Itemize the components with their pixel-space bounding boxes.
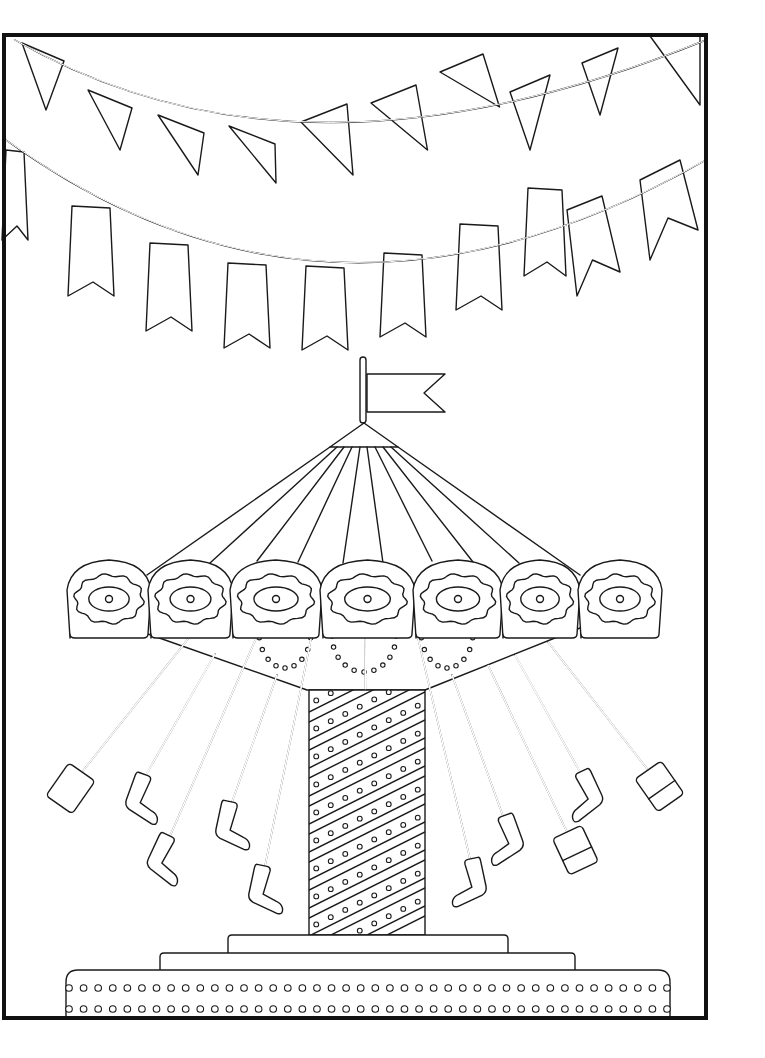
swing bbox=[417, 634, 489, 908]
stripe-dot bbox=[314, 726, 319, 731]
seat-box bbox=[46, 763, 95, 814]
swing bbox=[246, 634, 312, 915]
canopy-rib bbox=[398, 447, 580, 575]
carousel-illustration bbox=[0, 0, 765, 1058]
seat-chair bbox=[444, 857, 489, 908]
canopy-panels bbox=[67, 560, 662, 638]
stripe-dot bbox=[372, 781, 377, 786]
base-dot bbox=[357, 985, 364, 992]
stripe-dot bbox=[357, 732, 362, 737]
swing bbox=[515, 655, 608, 823]
bunting-flag bbox=[158, 115, 204, 175]
base-dot bbox=[532, 1006, 539, 1013]
decor-dot bbox=[300, 657, 304, 661]
panel-shape bbox=[148, 560, 233, 638]
stripe-dot bbox=[415, 647, 420, 652]
base-dot bbox=[387, 985, 394, 992]
base-dot bbox=[445, 1006, 452, 1013]
stripe-dot bbox=[401, 794, 406, 799]
base-dot bbox=[605, 1006, 612, 1013]
stripe-dot bbox=[314, 894, 319, 899]
decor-dot bbox=[422, 647, 426, 651]
canopy-panel bbox=[413, 560, 503, 638]
base-dot bbox=[620, 985, 627, 992]
canopy-rib bbox=[391, 447, 519, 563]
stripe-dot bbox=[386, 858, 391, 863]
base-dot bbox=[153, 985, 160, 992]
canopy-panel bbox=[230, 560, 322, 638]
decor-dot bbox=[428, 657, 432, 661]
decor-dot bbox=[352, 668, 356, 672]
swing-seat bbox=[246, 864, 291, 915]
seat-box bbox=[552, 825, 598, 875]
base-dot bbox=[284, 985, 291, 992]
seat-chair bbox=[478, 813, 527, 867]
stripe-dot bbox=[401, 682, 406, 687]
stripe-dot bbox=[401, 906, 406, 911]
base-dot bbox=[635, 985, 642, 992]
lower-garland bbox=[2, 140, 706, 350]
stripe-dot bbox=[401, 822, 406, 827]
swing bbox=[46, 634, 192, 814]
base-dot bbox=[182, 985, 189, 992]
base-dot bbox=[357, 1006, 364, 1013]
stripe-dot bbox=[415, 843, 420, 848]
base-dot bbox=[124, 985, 131, 992]
base-dot bbox=[241, 1006, 248, 1013]
stripe-dot bbox=[343, 823, 348, 828]
panel-shape bbox=[500, 560, 580, 638]
decor-dot bbox=[381, 663, 385, 667]
stripe-dot bbox=[314, 810, 319, 815]
flag-pole bbox=[360, 357, 366, 423]
swing-seat bbox=[213, 800, 258, 851]
seat-chair bbox=[556, 768, 608, 823]
base-dot bbox=[445, 985, 452, 992]
flag-icon bbox=[367, 374, 445, 412]
base-dot bbox=[503, 985, 510, 992]
base-dot bbox=[489, 985, 496, 992]
bunting-flag bbox=[302, 266, 348, 350]
base-dot bbox=[255, 985, 262, 992]
base-dot bbox=[503, 1006, 510, 1013]
base-dot bbox=[664, 1006, 671, 1013]
swing-chain-inner bbox=[515, 655, 580, 772]
stripe-dot bbox=[328, 803, 333, 808]
base-dot bbox=[80, 985, 87, 992]
base-dot bbox=[430, 1006, 437, 1013]
stripe-dot bbox=[386, 830, 391, 835]
stripe-dot bbox=[314, 782, 319, 787]
base-tier bbox=[228, 935, 508, 955]
stripe-dot bbox=[372, 725, 377, 730]
swing-seat bbox=[444, 857, 489, 908]
base-dot bbox=[416, 985, 423, 992]
decor-dot bbox=[283, 666, 287, 670]
swing-seat bbox=[142, 832, 194, 887]
stripe-dot bbox=[372, 865, 377, 870]
swing-seat bbox=[478, 813, 527, 867]
stripe-dot bbox=[401, 766, 406, 771]
decor-dot bbox=[266, 657, 270, 661]
stripe-dot bbox=[386, 914, 391, 919]
stripe-dot bbox=[415, 703, 420, 708]
stripe-dot bbox=[357, 788, 362, 793]
base-dot bbox=[460, 1006, 467, 1013]
stripe-dot bbox=[328, 719, 333, 724]
swing bbox=[452, 675, 527, 866]
stripe-dot bbox=[343, 767, 348, 772]
base-dot bbox=[401, 985, 408, 992]
swing bbox=[122, 654, 215, 825]
stripe-dot bbox=[328, 775, 333, 780]
base-dot bbox=[576, 1006, 583, 1013]
base-dot bbox=[270, 985, 277, 992]
base-dot bbox=[197, 985, 204, 992]
decor-dot bbox=[260, 647, 264, 651]
canopy-cone bbox=[330, 423, 398, 447]
base-dot bbox=[343, 1006, 350, 1013]
base-dot bbox=[284, 1006, 291, 1013]
seat-chair bbox=[142, 832, 194, 887]
bunting-garlands bbox=[2, 36, 706, 350]
stripe-dot bbox=[357, 676, 362, 681]
bunting-flag bbox=[380, 253, 426, 337]
base-dot bbox=[401, 1006, 408, 1013]
bunting-flag bbox=[301, 104, 353, 175]
